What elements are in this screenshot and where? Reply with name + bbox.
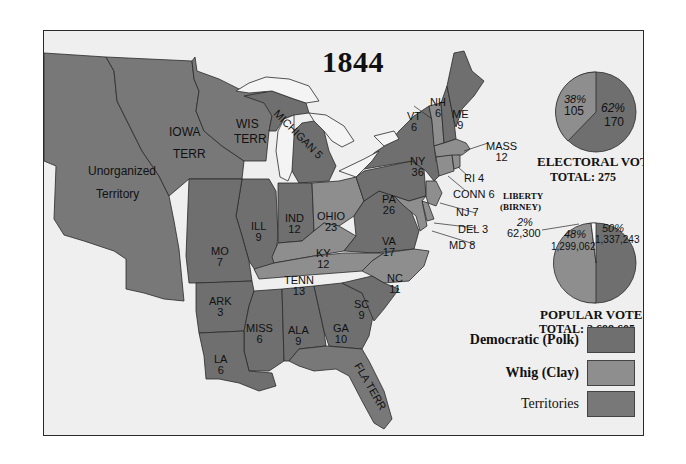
- label-va: VA17: [382, 236, 396, 258]
- label-ala: ALA9: [288, 325, 309, 347]
- label-ky: KY12: [316, 248, 331, 270]
- label-conn: CONN 6: [453, 189, 495, 200]
- label-del: DEL 3: [458, 224, 488, 235]
- label-nj: NJ 7: [456, 207, 479, 218]
- liberty-count: 62,300: [507, 228, 541, 239]
- electoral-vote-total: TOTAL: 275: [550, 170, 616, 185]
- electoral-dem-pct: 62%: [601, 103, 625, 114]
- legend-label-whig: Whig (Clay): [506, 365, 580, 381]
- label-ill: ILL9: [251, 221, 266, 243]
- liberty-label-1: LIBERTY: [503, 191, 543, 201]
- label-wis-2: TERR: [234, 134, 267, 145]
- state-new-jersey: [426, 181, 442, 206]
- popular-dem-pct: 50%: [602, 223, 624, 234]
- label-wis-1: WIS: [236, 119, 259, 130]
- label-ga: GA10: [333, 323, 349, 345]
- legend-label-territories: Territories: [521, 396, 579, 412]
- liberty-label-2: (BIRNEY): [500, 202, 541, 212]
- label-ind: IND12: [285, 213, 304, 235]
- label-sc: SC9: [354, 299, 369, 321]
- label-unorganized-2: Territory: [96, 189, 139, 200]
- label-ri: RI 4: [464, 173, 484, 184]
- electoral-vote-caption: ELECTORAL VOTE: [537, 154, 644, 170]
- label-nh: NH6: [430, 97, 446, 119]
- label-ohio: OHIO23: [317, 211, 345, 233]
- popular-dem-count: 1,337,243: [595, 234, 640, 245]
- label-ark: ARK3: [209, 296, 232, 318]
- legend-territories: Territories: [521, 391, 635, 417]
- popular-whig-count: 1,299,062: [551, 241, 596, 252]
- label-md: MD 8: [449, 240, 475, 251]
- label-iowa-2: TERR: [173, 149, 206, 160]
- state-connecticut: [436, 155, 454, 176]
- legend-swatch-whig: [587, 360, 635, 386]
- label-mo: MO7: [211, 246, 229, 268]
- electoral-dem-count: 170: [604, 117, 624, 128]
- popular-vote-caption: POPULAR VOTE: [540, 307, 642, 323]
- label-nc: NC11: [387, 273, 403, 295]
- legend-swatch-territories: [587, 391, 635, 417]
- map-frame: 1844 Unorganized Territory IOWA TERR WIS…: [43, 30, 644, 436]
- legend-democratic: Democratic (Polk): [470, 327, 635, 353]
- popular-whig-pct: 48%: [564, 229, 586, 240]
- map-title: 1844: [322, 45, 384, 79]
- label-ny: NY36: [410, 156, 425, 178]
- label-la: LA6: [214, 354, 227, 376]
- legend-label-democratic: Democratic (Polk): [470, 332, 579, 348]
- label-mass: MASS12: [486, 141, 517, 163]
- label-pa: PA26: [382, 194, 396, 216]
- electoral-whig-count: 105: [564, 106, 584, 117]
- legend-whig: Whig (Clay): [506, 360, 636, 386]
- legend-swatch-democratic: [587, 327, 635, 353]
- label-tenn: TENN13: [284, 275, 314, 297]
- label-iowa-1: IOWA: [169, 127, 201, 138]
- label-me: ME9: [452, 109, 469, 131]
- label-miss: MISS6: [246, 323, 273, 345]
- label-unorganized-1: Unorganized: [88, 166, 156, 177]
- label-vt: VT6: [407, 111, 421, 133]
